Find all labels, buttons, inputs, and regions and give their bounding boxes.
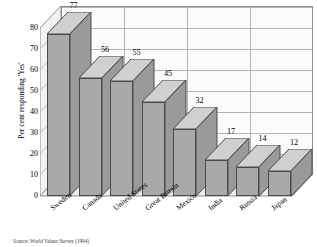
y-axis-tick-50: 50 — [30, 87, 38, 95]
x-axis-category-labels: SwedenCanadaUnited StatesGreat BritainMe… — [40, 200, 317, 242]
bar-top-face — [142, 80, 188, 104]
bar-value-label: 32 — [195, 97, 203, 105]
bar-chart: Per cent responding 'Yes' 01020304050607… — [0, 0, 317, 247]
y-axis-tick-20: 20 — [30, 150, 38, 158]
bar-front-face — [205, 160, 228, 196]
bar-front-face — [47, 34, 70, 196]
bar-value-label: 45 — [164, 70, 172, 78]
bar-value-label: 56 — [101, 46, 109, 54]
bar-value-label: 77 — [69, 2, 77, 10]
source-note: Source: World Values Survey (1994) — [13, 238, 89, 244]
y-axis-tick-0: 0 — [34, 192, 38, 200]
bar-value-label: 12 — [290, 139, 298, 147]
bar-front-face — [236, 167, 259, 196]
bar-value-label: 17 — [227, 128, 235, 136]
y-axis-tick-40: 40 — [30, 108, 38, 116]
bar-top-face — [268, 149, 314, 173]
bar-value-label: 14 — [258, 135, 266, 143]
bar-front-face — [79, 78, 102, 196]
y-axis-tick-10: 10 — [30, 171, 38, 179]
y-axis-tick-labels: 01020304050607080 — [0, 0, 40, 247]
bar-top-face — [173, 107, 219, 131]
bar-front-face — [110, 81, 133, 197]
plot-area: 7756554532171412 — [40, 6, 317, 206]
y-axis-tick-30: 30 — [30, 129, 38, 137]
bar-top-face — [47, 12, 93, 36]
bars-layer: 7756554532171412 — [40, 6, 317, 206]
y-axis-tick-60: 60 — [30, 66, 38, 74]
y-axis-tick-70: 70 — [30, 45, 38, 53]
bar-front-face — [268, 171, 291, 196]
y-axis-tick-80: 80 — [30, 24, 38, 32]
bar-value-label: 55 — [132, 49, 140, 57]
